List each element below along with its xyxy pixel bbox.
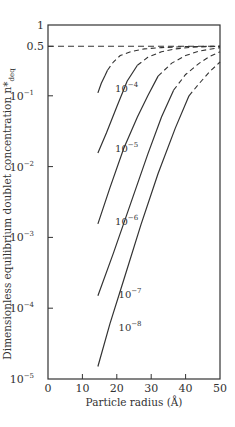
x-tick-label: 20 xyxy=(110,382,124,395)
y-tick-label: 1 xyxy=(37,19,44,32)
curve-label-10^-7: 10−7 xyxy=(119,287,142,300)
y-axis-title: Dimensionless equilibrium doublet concen… xyxy=(1,68,16,360)
series-10^-7-dashed xyxy=(174,52,220,90)
chart: 01020304050 10.510−110−210−310−410−5 10−… xyxy=(0,0,235,427)
series-10^-5-dashed xyxy=(137,46,220,65)
y-tick-label: 10−1 xyxy=(10,89,34,103)
x-tick-label: 0 xyxy=(45,382,52,395)
series-10^-6-dashed xyxy=(158,48,220,77)
series-10^-4-solid xyxy=(98,70,108,93)
y-tick-label: 10−5 xyxy=(10,372,34,386)
series-10^-8-solid xyxy=(98,96,189,367)
x-tick-label: 30 xyxy=(144,382,158,395)
series-10^-8-dashed xyxy=(189,62,220,96)
curve-label-10^-8: 10−8 xyxy=(119,320,142,333)
curve-label-10^-6: 10−6 xyxy=(115,214,139,227)
y-tick-label: 0.5 xyxy=(27,40,45,53)
curve-label-10^-5: 10−5 xyxy=(115,141,138,154)
x-axis-title: Particle radius (Å) xyxy=(86,395,183,408)
curve-label-10^-4: 10−4 xyxy=(115,81,139,94)
x-tick-label: 40 xyxy=(179,382,193,395)
x-tick-label: 50 xyxy=(213,382,227,395)
y-tick-label: 10−3 xyxy=(10,230,34,244)
y-tick-label: 10−4 xyxy=(10,301,35,315)
y-tick-label: 10−2 xyxy=(10,160,34,174)
x-tick-label: 10 xyxy=(75,382,89,395)
